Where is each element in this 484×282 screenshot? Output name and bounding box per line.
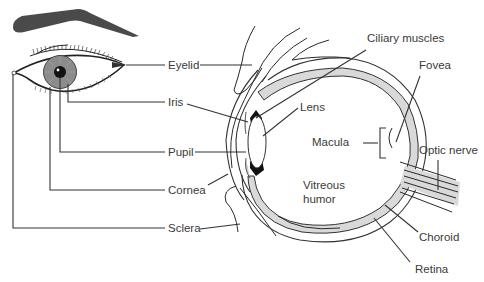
label-vitreous-humor-1: Vitreous [303,180,345,192]
label-macula: Macula [312,137,349,149]
label-lens: Lens [300,102,325,114]
label-ciliary-muscles: Ciliary muscles [367,33,444,45]
label-iris: Iris [168,97,183,109]
label-fovea: Fovea [419,60,451,72]
label-cornea: Cornea [168,185,206,197]
eye-anatomy-diagram: Eyelid Iris Pupil Cornea Sclera Ciliary … [0,0,484,282]
choroid-band [248,68,418,233]
label-optic-nerve: Optic nerve [419,145,478,157]
label-retina: Retina [415,264,448,276]
label-pupil: Pupil [168,147,194,159]
front-view-leader-lines [13,65,165,228]
eyebrow-shape [13,9,139,37]
label-eyelid: Eyelid [168,60,199,72]
optic-nerve-shape [400,162,460,212]
label-sclera: Sclera [168,223,201,235]
label-choroid: Choroid [419,232,459,244]
pupil-shape [54,66,66,78]
label-vitreous-humor-2: humor [303,194,336,206]
front-view-eye [12,9,139,94]
lens-shape [248,116,266,168]
